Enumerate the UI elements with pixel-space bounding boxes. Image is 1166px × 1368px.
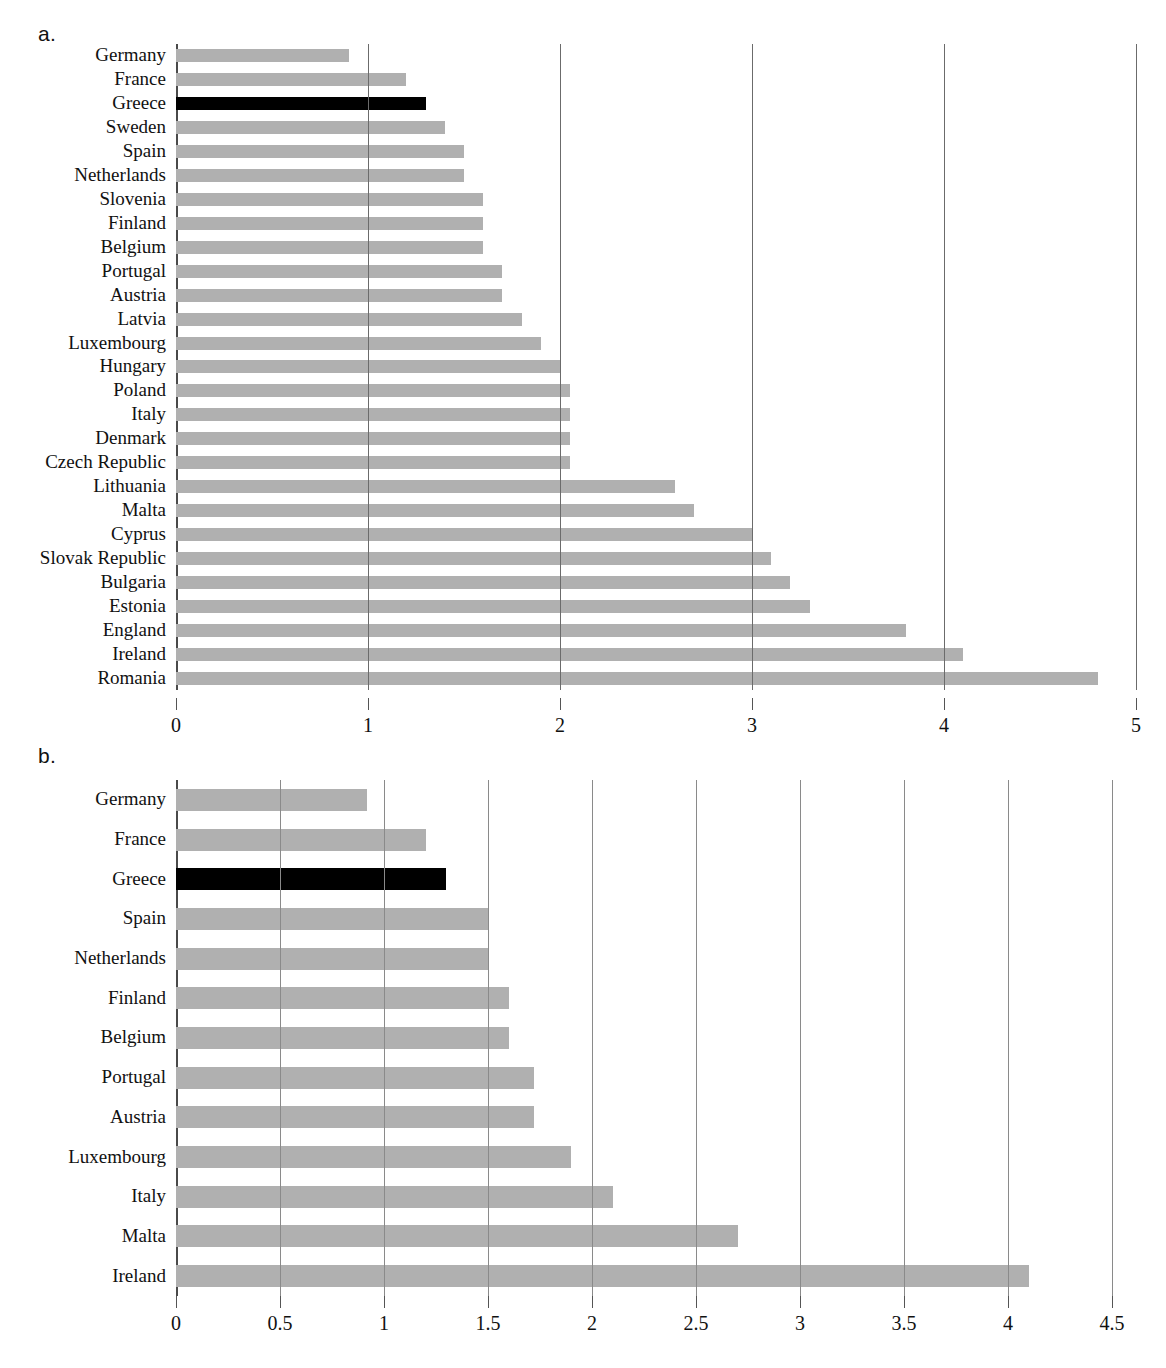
category-label: Austria	[0, 1107, 176, 1126]
category-label: Ireland	[0, 1266, 176, 1285]
category-label: Luxembourg	[0, 1147, 176, 1166]
bar-wrapper	[176, 868, 1112, 890]
bar-wrapper	[176, 1265, 1112, 1287]
bar-wrapper	[176, 829, 1112, 851]
bar	[176, 1106, 534, 1128]
gridline	[592, 780, 593, 1296]
bar	[176, 948, 488, 970]
gridline	[280, 780, 281, 1296]
gridline	[904, 780, 905, 1296]
bar	[176, 987, 509, 1009]
bar-row: Malta	[176, 1217, 1112, 1257]
x-tick-label: 4.5	[1100, 1312, 1125, 1335]
bar	[176, 789, 367, 811]
plot-area-b: GermanyFranceGreeceSpainNetherlandsFinla…	[176, 780, 1112, 1296]
category-label: Netherlands	[0, 948, 176, 967]
bar	[176, 868, 446, 890]
x-tick-label: 3.5	[892, 1312, 917, 1335]
x-tick-label: 2	[587, 1312, 597, 1335]
gridline	[1008, 780, 1009, 1296]
x-tick	[1008, 1296, 1009, 1308]
bar-wrapper	[176, 789, 1112, 811]
bar-rows-b: GermanyFranceGreeceSpainNetherlandsFinla…	[176, 780, 1112, 1296]
bar-wrapper	[176, 1186, 1112, 1208]
category-label: France	[0, 829, 176, 848]
category-label: Malta	[0, 1226, 176, 1245]
bar	[176, 908, 488, 930]
category-label: Greece	[0, 869, 176, 888]
bar-row: France	[176, 820, 1112, 860]
x-tick	[904, 1296, 905, 1308]
bar-wrapper	[176, 1225, 1112, 1247]
bar-row: Spain	[176, 899, 1112, 939]
x-tick	[488, 1296, 489, 1308]
bar	[176, 829, 426, 851]
bar	[176, 1027, 509, 1049]
bar-row: Netherlands	[176, 939, 1112, 979]
x-tick	[1112, 1296, 1113, 1308]
bar-wrapper	[176, 1067, 1112, 1089]
bar-row: Portugal	[176, 1058, 1112, 1098]
bar-wrapper	[176, 1146, 1112, 1168]
category-label: Portugal	[0, 1067, 176, 1086]
bar-wrapper	[176, 948, 1112, 970]
gridline	[1112, 780, 1113, 1296]
bar-wrapper	[176, 1106, 1112, 1128]
bar-row: Austria	[176, 1098, 1112, 1138]
x-tick-label: 0.5	[268, 1312, 293, 1335]
bar	[176, 1067, 534, 1089]
bar-row: Germany	[176, 780, 1112, 820]
bar-row: Ireland	[176, 1256, 1112, 1296]
x-tick	[280, 1296, 281, 1308]
category-label: Finland	[0, 988, 176, 1007]
bar-row: Belgium	[176, 1018, 1112, 1058]
x-tick-label: 1	[379, 1312, 389, 1335]
bar-row: Greece	[176, 859, 1112, 899]
category-label: Belgium	[0, 1027, 176, 1046]
bar	[176, 1225, 738, 1247]
x-tick	[800, 1296, 801, 1308]
bar-wrapper	[176, 908, 1112, 930]
category-label: Germany	[0, 789, 176, 808]
x-tick	[592, 1296, 593, 1308]
bar	[176, 1146, 571, 1168]
bar-chart-b: GermanyFranceGreeceSpainNetherlandsFinla…	[0, 0, 1166, 1368]
gridline	[384, 780, 385, 1296]
x-tick	[176, 1296, 177, 1308]
gridline	[696, 780, 697, 1296]
x-tick	[696, 1296, 697, 1308]
category-label: Italy	[0, 1186, 176, 1205]
bar-row: Finland	[176, 978, 1112, 1018]
x-tick-label: 0	[171, 1312, 181, 1335]
bar-row: Italy	[176, 1177, 1112, 1217]
x-tick-label: 2.5	[684, 1312, 709, 1335]
gridline	[488, 780, 489, 1296]
bar-wrapper	[176, 1027, 1112, 1049]
x-tick-label: 4	[1003, 1312, 1013, 1335]
x-tick-label: 1.5	[476, 1312, 501, 1335]
bar	[176, 1265, 1029, 1287]
gridline	[800, 780, 801, 1296]
bar	[176, 1186, 613, 1208]
x-tick	[384, 1296, 385, 1308]
x-tick-label: 3	[795, 1312, 805, 1335]
bar-wrapper	[176, 987, 1112, 1009]
category-label: Spain	[0, 908, 176, 927]
bar-row: Luxembourg	[176, 1137, 1112, 1177]
